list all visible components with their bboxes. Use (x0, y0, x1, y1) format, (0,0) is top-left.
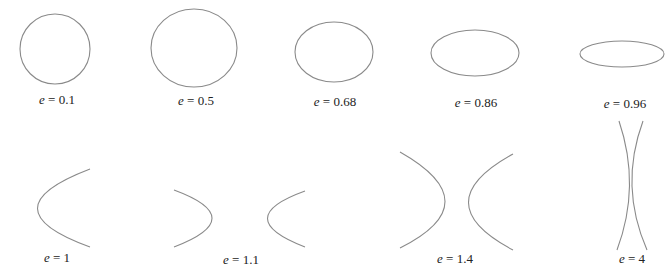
eccentricity-value: 1.4 (457, 251, 473, 266)
equals-sign: = (184, 93, 198, 108)
ellipse-e-0-1 (20, 14, 90, 84)
eccentricity-value: 0.96 (623, 96, 646, 111)
eccentricity-value: 1 (64, 250, 71, 265)
equals-sign: = (45, 92, 59, 107)
equals-sign: = (443, 251, 457, 266)
conic-diagram (0, 0, 669, 272)
eccentricity-value: 1.1 (243, 252, 259, 267)
label-e-1: e = 1 (44, 250, 70, 266)
label-e-4: e = 4 (619, 251, 645, 267)
equals-sign: = (625, 251, 639, 266)
eccentricity-value: 0.1 (59, 92, 75, 107)
equals-sign: = (50, 250, 64, 265)
equals-sign: = (610, 96, 624, 111)
hyperbola-e-4-left-branch (617, 121, 630, 250)
label-e-0-68: e = 0.68 (314, 94, 356, 110)
eccentricity-value: 0.5 (198, 93, 214, 108)
parabola-e-1 (38, 169, 91, 247)
label-e-1-4: e = 1.4 (437, 251, 473, 267)
label-e-0-1: e = 0.1 (39, 92, 75, 108)
ellipse-e-0-86 (431, 30, 519, 76)
ellipse-e-0-5 (151, 9, 237, 87)
equals-sign: = (461, 95, 475, 110)
ellipse-e-0-96 (580, 41, 664, 67)
label-e-1-1: e = 1.1 (223, 252, 259, 268)
eccentricity-value: 4 (639, 251, 646, 266)
hyperbola-e-1-4-left-branch (400, 152, 445, 248)
ellipse-e-0-68 (295, 22, 373, 82)
label-e-0-86: e = 0.86 (455, 95, 497, 111)
hyperbola-e-1-1-left-branch (174, 190, 212, 247)
eccentricity-value: 0.68 (333, 94, 356, 109)
label-e-0-5: e = 0.5 (178, 93, 214, 109)
label-e-0-96: e = 0.96 (604, 96, 646, 112)
hyperbola-e-1-4-right-branch (469, 154, 514, 250)
equals-sign: = (320, 94, 334, 109)
hyperbola-e-4-right-branch (632, 121, 647, 250)
equals-sign: = (229, 252, 243, 267)
eccentricity-value: 0.86 (474, 95, 497, 110)
hyperbola-e-1-1-right-branch (268, 191, 306, 247)
